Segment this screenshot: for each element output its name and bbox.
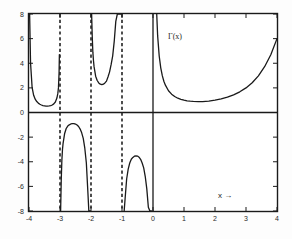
x-tick-label: -1 <box>114 215 130 222</box>
x-tick-label: -4 <box>21 215 37 222</box>
x-tick-label: 4 <box>269 215 285 222</box>
x-tick-label: 0 <box>145 215 161 222</box>
gamma-function-figure: -8-6-4-202468 -4-3-2-101234 Γ(x) x → <box>0 0 292 239</box>
y-tick-label: 0 <box>8 109 24 116</box>
x-tick-label: 3 <box>238 215 254 222</box>
x-tick-label: 1 <box>176 215 192 222</box>
y-tick-label: -2 <box>8 134 24 141</box>
x-tick-label: -3 <box>52 215 68 222</box>
plot-canvas <box>0 0 292 239</box>
y-tick-label: 6 <box>8 35 24 42</box>
x-tick-label: -2 <box>83 215 99 222</box>
x-axis-arrow-label: x → <box>218 192 232 200</box>
y-tick-label: -8 <box>8 208 24 215</box>
y-tick-label: -4 <box>8 158 24 165</box>
gamma-function-label: Γ(x) <box>168 33 182 41</box>
y-tick-label: -6 <box>8 183 24 190</box>
y-tick-label: 2 <box>8 84 24 91</box>
x-tick-label: 2 <box>207 215 223 222</box>
y-tick-label: 8 <box>8 11 24 18</box>
y-tick-label: 4 <box>8 60 24 67</box>
